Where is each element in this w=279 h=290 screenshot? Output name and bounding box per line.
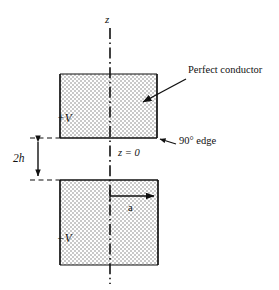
edge-callout-arrow bbox=[160, 139, 176, 144]
conductor-callout-label: Perfect conductor bbox=[188, 65, 262, 76]
a-dimension-label: a bbox=[128, 203, 133, 214]
lower-plate-potential-label: −V bbox=[57, 233, 72, 245]
lower-plate-fill bbox=[60, 180, 158, 265]
upper-plate bbox=[60, 74, 157, 138]
edge-callout-leader bbox=[160, 139, 176, 144]
figure-container: z +V −V z = 0 2h a Perfect conductor 90°… bbox=[0, 0, 279, 290]
z-axis-label: z bbox=[105, 14, 109, 25]
gap-dimension bbox=[30, 138, 60, 180]
gap-dimension-label: 2h bbox=[13, 153, 25, 165]
lower-plate bbox=[60, 180, 158, 265]
capacitor-diagram bbox=[0, 0, 279, 290]
upper-plate-fill bbox=[60, 74, 157, 138]
edge-callout-label: 90° edge bbox=[179, 136, 216, 147]
origin-label: z = 0 bbox=[118, 148, 140, 159]
upper-plate-potential-label: +V bbox=[57, 113, 72, 125]
